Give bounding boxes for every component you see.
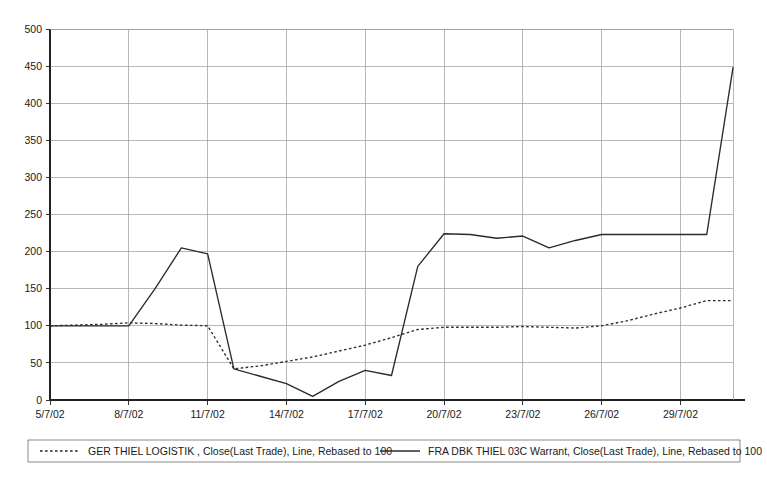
legend-entry-label: FRA DBK THIEL 03C Warrant, Close(Last Tr…: [428, 445, 762, 457]
y-tick-label: 150: [24, 282, 42, 294]
chart-legend: GER THIEL LOGISTIK , Close(Last Trade), …: [28, 440, 762, 462]
x-tick-label: 23/7/02: [505, 408, 540, 420]
chart-container: 050100150200250300350400450500 5/7/028/7…: [0, 0, 767, 477]
legend-entry-label: GER THIEL LOGISTIK , Close(Last Trade), …: [88, 445, 392, 457]
y-tick-label: 50: [30, 357, 42, 369]
x-tick-label: 29/7/02: [663, 408, 698, 420]
x-tick-label: 11/7/02: [190, 408, 224, 420]
y-tick-label: 350: [24, 134, 42, 146]
data-series-group: [50, 68, 733, 397]
y-tick-label: 100: [24, 319, 42, 331]
grid-lines: [50, 29, 733, 400]
y-tick-label: 450: [24, 60, 42, 72]
x-tick-label: 26/7/02: [584, 408, 619, 420]
x-tick-label: 8/7/02: [114, 408, 143, 420]
line-chart: 050100150200250300350400450500 5/7/028/7…: [0, 0, 767, 477]
x-tick-label: 14/7/02: [269, 408, 304, 420]
x-axis: 5/7/028/7/0211/7/0214/7/0217/7/0220/7/02…: [35, 400, 698, 420]
y-tick-label: 300: [24, 171, 42, 183]
series-line-fra-dbk-thiel-warrant: [50, 68, 733, 397]
y-axis: 050100150200250300350400450500: [24, 23, 50, 406]
x-tick-label: 20/7/02: [427, 408, 462, 420]
y-tick-label: 200: [24, 245, 42, 257]
x-tick-label: 5/7/02: [35, 408, 64, 420]
y-tick-label: 500: [24, 23, 42, 35]
series-line-ger-thiel-logistik: [50, 301, 733, 369]
x-tick-label: 17/7/02: [348, 408, 383, 420]
y-tick-label: 0: [36, 394, 42, 406]
y-tick-label: 250: [24, 208, 42, 220]
y-tick-label: 400: [24, 97, 42, 109]
